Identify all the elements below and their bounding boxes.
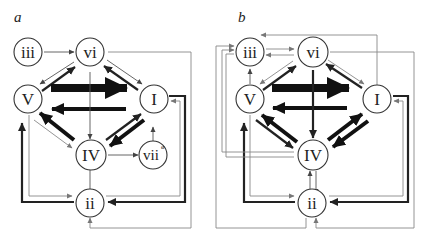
node-iii: iii	[236, 38, 264, 66]
svg-text:ii: ii	[85, 194, 95, 213]
svg-text:V: V	[244, 90, 257, 109]
svg-text:iii: iii	[243, 43, 257, 62]
panel-a-nodes: iii vi V I IV vii ø	[14, 38, 168, 217]
node-V: V	[14, 85, 42, 113]
svg-text:vi: vi	[306, 43, 320, 62]
node-I: I	[363, 85, 391, 113]
edge-V-to-ii	[250, 115, 294, 196]
svg-text:V: V	[22, 90, 35, 109]
panel-a: a	[14, 9, 191, 228]
edge-V-to-ii	[29, 115, 72, 196]
node-vi: vi	[76, 38, 104, 66]
svg-text:IV: IV	[82, 146, 101, 165]
panel-b: b	[216, 9, 414, 228]
panel-label-b: b	[238, 9, 246, 25]
svg-text:vi: vi	[83, 43, 97, 62]
node-iii: iii	[14, 38, 42, 66]
panel-label-a: a	[14, 9, 22, 25]
chord-network-figure: a	[0, 0, 422, 235]
edge-IV-to-V	[40, 113, 74, 140]
svg-text:vii: vii	[143, 147, 159, 163]
node-vii-half-diminished: vii ø	[139, 141, 167, 169]
node-IV: IV	[76, 140, 106, 170]
edge-I-to-ii	[330, 96, 408, 202]
node-V: V	[236, 85, 264, 113]
svg-text:I: I	[374, 90, 380, 109]
svg-text:iii: iii	[21, 43, 35, 62]
node-vi: vi	[298, 37, 328, 67]
svg-text:ii: ii	[307, 194, 317, 213]
edge-ii-to-I	[329, 101, 403, 196]
svg-text:ø: ø	[161, 143, 165, 151]
node-ii: ii	[298, 189, 326, 217]
node-ii: ii	[76, 189, 104, 217]
edge-vi-to-I	[328, 60, 364, 84]
node-I: I	[140, 85, 168, 113]
svg-text:I: I	[151, 90, 157, 109]
node-IV: IV	[298, 140, 328, 170]
svg-text:IV: IV	[304, 146, 323, 165]
panel-a-edges	[22, 52, 191, 228]
